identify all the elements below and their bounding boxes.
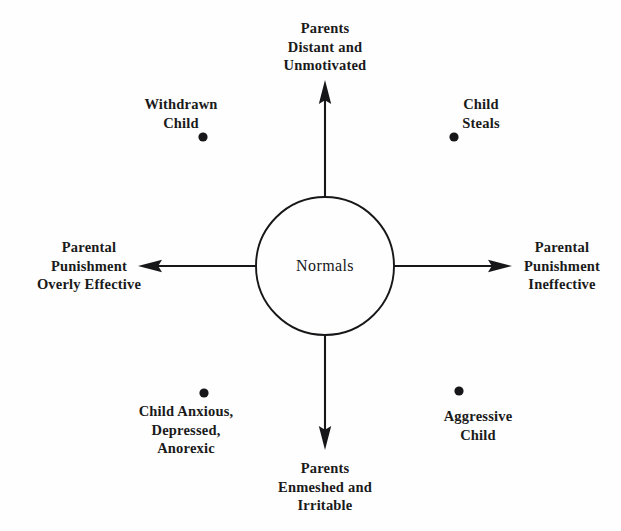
- quadrant-dot-child-steals: [449, 132, 458, 141]
- quadrant-label-line: Withdrawn: [144, 95, 217, 114]
- quadrant-label-line: Aggressive: [444, 407, 513, 426]
- quadrant-label-line: Depressed,: [139, 421, 234, 440]
- axis-arrow-right: [394, 260, 512, 272]
- axis-label-line: Irritable: [278, 496, 372, 515]
- axis-arrow-top: [319, 80, 331, 197]
- quadrant-label-line: Steals: [462, 113, 499, 132]
- center-circle-label: Normals: [296, 257, 354, 275]
- axis-label-line: Parents: [278, 459, 372, 478]
- quadrant-label-child-anxious-depressed-anorexic: Child Anxious, Depressed, Anorexic: [139, 402, 234, 458]
- diagram-canvas: Normals Parents Distant and Unmotivated …: [0, 0, 621, 531]
- axis-label-parental-punishment-ineffective: Parental Punishment Ineffective: [524, 238, 600, 294]
- axis-arrow-bottom: [319, 335, 331, 450]
- axis-label-line: Enmeshed and: [278, 478, 372, 497]
- axis-label-line: Punishment: [37, 257, 141, 276]
- quadrant-label-line: Anorexic: [139, 439, 234, 458]
- axis-label-line: Parents: [284, 19, 367, 38]
- axis-label-parents-enmeshed-irritable: Parents Enmeshed and Irritable: [278, 459, 372, 515]
- axis-label-line: Parental: [524, 238, 600, 257]
- quadrant-label-line: Child: [462, 95, 499, 114]
- axis-label-parental-punishment-overly-effective: Parental Punishment Overly Effective: [37, 238, 141, 294]
- axis-label-line: Ineffective: [524, 275, 600, 294]
- quadrant-dot-aggressive-child: [454, 386, 463, 395]
- axis-label-line: Punishment: [524, 257, 600, 276]
- axis-label-line: Unmotivated: [284, 56, 367, 75]
- axis-label-line: Parental: [37, 238, 141, 257]
- axis-arrow-left: [138, 260, 256, 272]
- quadrant-dot-child-anxious-depressed-anorexic: [199, 388, 208, 397]
- quadrant-label-withdrawn-child: Withdrawn Child: [144, 95, 217, 132]
- quadrant-label-child-steals: Child Steals: [462, 95, 499, 132]
- axis-label-parents-distant-unmotivated: Parents Distant and Unmotivated: [284, 19, 367, 75]
- quadrant-dot-withdrawn-child: [198, 132, 207, 141]
- quadrant-label-line: Child: [144, 113, 217, 132]
- axis-label-line: Overly Effective: [37, 275, 141, 294]
- quadrant-label-aggressive-child: Aggressive Child: [444, 407, 513, 444]
- quadrant-label-line: Child: [444, 425, 513, 444]
- axis-label-line: Distant and: [284, 38, 367, 57]
- quadrant-label-line: Child Anxious,: [139, 402, 234, 421]
